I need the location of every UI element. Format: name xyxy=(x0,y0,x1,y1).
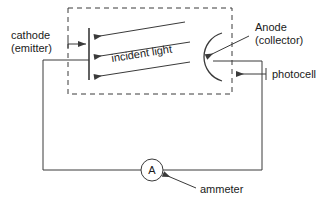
light-ray-3 xyxy=(94,62,190,77)
anode-label-line2: (collector) xyxy=(255,34,303,46)
incident-light-label: incident light xyxy=(110,43,172,64)
diagram-canvas: incident light A cathode (emitter) Anode… xyxy=(0,0,332,198)
cathode-label-line2: (emitter) xyxy=(11,42,52,54)
photocell-label: photocell xyxy=(272,68,316,80)
ammeter-leader-line xyxy=(163,174,196,188)
photocell-diagram: incident light A cathode (emitter) Anode… xyxy=(0,0,332,198)
ammeter-symbol-label: A xyxy=(148,164,156,176)
ammeter-label: ammeter xyxy=(200,183,244,195)
anode-leader-line xyxy=(206,36,249,57)
light-ray-1 xyxy=(94,22,185,37)
cathode-label-line1: cathode xyxy=(11,29,50,41)
anode-label-line1: Anode xyxy=(255,21,287,33)
